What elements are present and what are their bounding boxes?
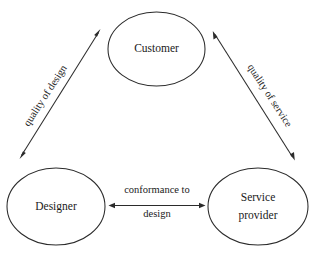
node-customer-label: Customer (134, 42, 179, 54)
node-service-provider-label-line1: Service (241, 191, 275, 203)
edge-quality-of-service: quality of service (213, 31, 295, 161)
edge-label-conformance-to-design-line1: conformance to (124, 184, 190, 195)
arrowhead-toward-customer (94, 29, 100, 37)
edge-label-conformance-to-design-line2: design (143, 208, 171, 219)
node-designer-label: Designer (35, 200, 77, 213)
arrowhead-toward-service-provider (290, 152, 295, 161)
edge-line-quality-of-design (22, 33, 99, 156)
node-service-provider-label-line2: provider (239, 209, 278, 222)
node-designer[interactable]: Designer (7, 168, 105, 245)
arrowhead-toward-designer (20, 151, 26, 159)
diagram-canvas-container: quality of design quality of service con… (0, 0, 314, 258)
arrowhead-toward-designer-horizontal (109, 203, 116, 208)
edge-conformance-to-design: conformance to design (109, 184, 206, 219)
edge-line-quality-of-service (215, 35, 293, 158)
node-service-provider-ellipse[interactable] (208, 168, 308, 245)
edge-label-quality-of-service: quality of service (245, 62, 294, 129)
quality-triangle-diagram: quality of design quality of service con… (0, 0, 314, 258)
node-service-provider[interactable]: Service provider (208, 168, 308, 245)
node-customer[interactable]: Customer (108, 12, 205, 86)
arrowhead-toward-service-provider-horizontal (199, 203, 206, 208)
edge-quality-of-design: quality of design (20, 29, 101, 159)
